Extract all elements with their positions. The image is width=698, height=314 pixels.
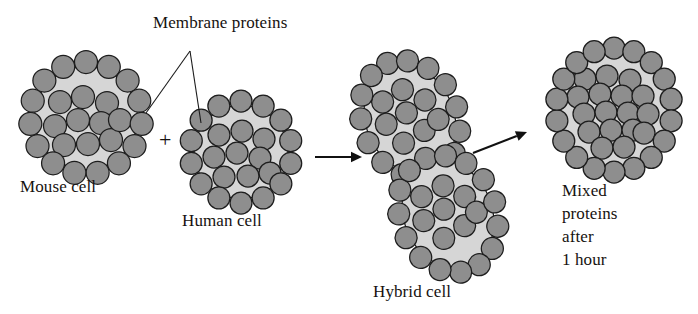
membrane-protein [546, 88, 568, 110]
membrane-protein [237, 165, 259, 187]
membrane-protein [280, 130, 302, 152]
membrane-protein [653, 68, 675, 90]
membrane-protein [33, 69, 56, 92]
membrane-protein [21, 89, 44, 112]
membrane-protein [270, 173, 292, 195]
membrane-protein [253, 128, 275, 150]
membrane-protein [270, 109, 292, 131]
membrane-protein [591, 137, 613, 159]
label-mixed-proteins-line-4: 1 hour [562, 250, 607, 269]
membrane-protein [660, 88, 682, 110]
label-mouse-cell: Mouse cell [20, 177, 96, 196]
membrane-protein [190, 173, 212, 195]
membrane-protein [49, 91, 72, 114]
membrane-protein [252, 187, 274, 209]
membrane-protein [583, 41, 605, 63]
membrane-protein [67, 109, 90, 132]
membrane-protein [52, 55, 75, 78]
membrane-protein [613, 136, 635, 158]
membrane-protein [226, 142, 248, 164]
mouse-cell [19, 51, 153, 185]
membrane-protein [208, 187, 230, 209]
membrane-protein [116, 69, 139, 92]
membrane-protein [77, 133, 100, 156]
membrane-protein [623, 157, 645, 179]
membrane-protein [75, 51, 98, 74]
label-human-cell: Human cell [182, 211, 262, 230]
plus-sign: + [159, 127, 171, 152]
membrane-protein [128, 89, 151, 112]
membrane-protein [213, 166, 235, 188]
membrane-protein [208, 95, 230, 117]
leader-line-to-mouse-cell-protein [146, 51, 190, 113]
membrane-protein [252, 95, 274, 117]
membrane-protein [231, 120, 253, 142]
membrane-protein [603, 37, 625, 59]
membrane-protein [19, 112, 42, 135]
membrane-protein [208, 124, 230, 146]
membrane-protein [633, 122, 655, 144]
membrane-protein [109, 109, 132, 132]
label-hybrid-cell: Hybrid cell [373, 282, 451, 301]
label-membrane-proteins: Membrane proteins [153, 13, 287, 32]
label-mixed-proteins-line-2: proteins [562, 204, 618, 223]
membrane-protein [26, 135, 49, 158]
membrane-protein [546, 110, 568, 132]
membrane-protein [180, 152, 202, 174]
membrane-protein [130, 112, 153, 135]
membrane-protein [97, 55, 120, 78]
membrane-protein [107, 152, 130, 175]
membrane-protein [190, 109, 212, 131]
membrane-protein [553, 130, 575, 152]
membrane-protein [180, 130, 202, 152]
label-mixed-proteins-line-1: Mixed [562, 181, 607, 200]
membrane-protein [230, 90, 252, 112]
membrane-protein [280, 152, 302, 174]
diagram-canvas: Membrane proteins Mouse cell Human cell … [0, 0, 698, 314]
mixing-arrow-shaft [473, 136, 517, 153]
fusion-arrow-head [351, 152, 362, 162]
membrane-protein [660, 110, 682, 132]
cell-fusion-diagram: Membrane proteins Mouse cell Human cell … [0, 0, 698, 314]
mixed-cell [546, 37, 682, 183]
membrane-protein [203, 146, 225, 168]
membrane-protein [72, 86, 95, 109]
label-mixed-proteins-line-3: after [562, 227, 594, 246]
membrane-protein [603, 161, 625, 183]
